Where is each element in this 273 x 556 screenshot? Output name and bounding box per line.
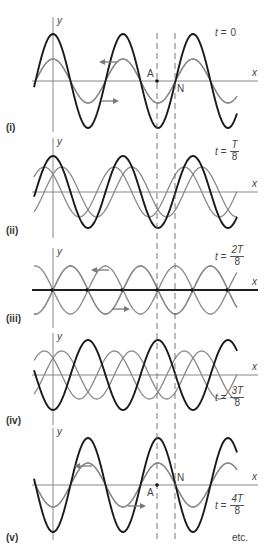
x-axis-label: x (252, 277, 257, 287)
time-label-iii: t = 2T8 (215, 245, 244, 267)
time-fraction: 2T8 (230, 245, 244, 267)
time-prefix: t = (215, 27, 226, 38)
panel-iv (32, 333, 258, 425)
node-dot (85, 288, 89, 292)
panel-label-iv: (iv) (6, 415, 21, 426)
stationary-wave-diagram (0, 0, 273, 556)
arrow-left-icon (99, 59, 117, 65)
time-prefix: t = (215, 500, 226, 511)
panel-label-iii: (iii) (6, 313, 21, 324)
node-label: N (177, 84, 184, 94)
time-prefix: t = (215, 146, 226, 157)
arrow-left-icon (91, 267, 109, 273)
node-dot (225, 288, 229, 292)
node-label: N (177, 473, 184, 483)
panel-label-i: (i) (6, 122, 15, 133)
time-fraction: 3T8 (230, 386, 244, 408)
x-axis-label: x (252, 179, 257, 189)
antinode-label: A (147, 69, 154, 79)
antinode-dot (155, 79, 159, 83)
y-axis-label: y (57, 427, 62, 437)
time-label-v: t = 4T8 (215, 494, 244, 516)
x-axis-label: x (252, 472, 257, 482)
node-dot (50, 288, 54, 292)
y-axis-label: y (57, 16, 62, 26)
panel-label-ii: (ii) (6, 225, 18, 236)
antinode-dot (155, 483, 159, 487)
panel-label-v: (v) (6, 532, 18, 543)
time-label-ii: t = T8 (215, 140, 239, 162)
footer-etc: etc. (232, 533, 248, 543)
wave-curves (32, 17, 258, 540)
time-label-iv: t = 3T8 (215, 386, 244, 408)
panel-v (32, 428, 258, 540)
time-label-i: t = 0 (215, 27, 236, 38)
arrow-left-icon (74, 463, 92, 469)
arrow-right-icon (128, 503, 146, 509)
time-prefix: t = (215, 251, 226, 262)
x-axis-label: x (252, 68, 257, 78)
arrow-right-icon (101, 98, 119, 104)
time-prefix: t = (215, 392, 226, 403)
y-axis-label: y (57, 137, 62, 147)
antinode-label: A (147, 488, 154, 498)
y-axis-label: y (57, 247, 62, 257)
node-dot (190, 288, 194, 292)
time-fraction: 4T8 (230, 494, 244, 516)
x-axis-label: x (252, 362, 257, 372)
y-axis-label: y (57, 332, 62, 342)
time-fraction: T8 (230, 140, 238, 162)
node-dot (120, 288, 124, 292)
